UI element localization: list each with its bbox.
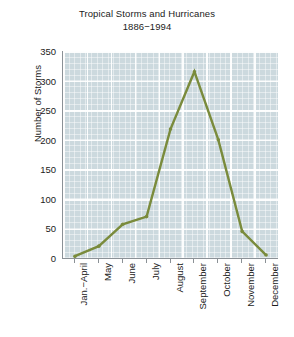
data-point-8 [264, 253, 268, 257]
y-axis-tick-200: 200 [16, 134, 56, 145]
x-axis-tick-8: December [269, 263, 280, 307]
x-axis-tick-4: August [174, 263, 185, 293]
chart-figure: Tropical Storms and Hurricanes 1886−1994… [0, 0, 294, 337]
storms-line [75, 72, 266, 257]
y-axis-tick-50: 50 [16, 223, 56, 234]
x-axis-tick-1: May [102, 263, 113, 281]
x-axis-tickmark-2 [122, 259, 123, 263]
data-point-2 [121, 222, 125, 226]
x-axis-tickmark-3 [146, 259, 147, 263]
x-axis-tick-6: October [221, 263, 232, 297]
chart-title-main: Tropical Storms and Hurricanes [0, 8, 294, 21]
chart-title: Tropical Storms and Hurricanes 1886−1994 [0, 8, 294, 33]
x-axis-tickmark-6 [217, 259, 218, 263]
x-axis-tickmark-1 [98, 259, 99, 263]
data-point-7 [240, 230, 244, 234]
data-point-5 [193, 70, 197, 74]
y-axis-tick-250: 250 [16, 105, 56, 116]
data-point-3 [145, 215, 149, 219]
y-axis-tick-100: 100 [16, 193, 56, 204]
y-axis-tick-300: 300 [16, 75, 56, 86]
data-point-6 [216, 138, 220, 142]
x-axis-tick-3: July [150, 263, 161, 280]
x-axis-tick-0: Jan.−April [78, 263, 89, 306]
y-axis-tick-350: 350 [16, 46, 56, 57]
data-point-1 [97, 244, 101, 248]
plot-area [62, 51, 278, 259]
data-series-line [63, 51, 278, 258]
y-axis-tick-0: 0 [16, 253, 56, 264]
storms-markers [73, 70, 268, 258]
data-point-0 [73, 254, 77, 258]
x-axis-tickmark-4 [170, 259, 171, 263]
x-axis-tick-2: June [126, 263, 137, 284]
y-axis-tick-150: 150 [16, 164, 56, 175]
x-axis-tick-7: November [245, 263, 256, 307]
data-point-4 [169, 127, 173, 131]
x-axis-tickmark-7 [241, 259, 242, 263]
x-axis-tickmark-5 [193, 259, 194, 263]
x-axis-tick-5: September [197, 263, 208, 309]
x-axis-tickmark-0 [74, 259, 75, 263]
x-axis-tickmark-8 [265, 259, 266, 263]
chart-title-subtitle: 1886−1994 [0, 21, 294, 34]
